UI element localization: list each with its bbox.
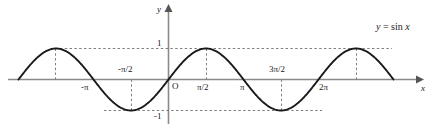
y-tick-label-negative-one: -1 (154, 112, 162, 121)
equation-sin-function: sin (391, 21, 403, 32)
y-axis-arrowhead (165, 4, 173, 12)
graph-canvas (0, 0, 438, 129)
equation-annotation: y = sin x (376, 22, 410, 32)
x-tick-label-negative-pi-over-two: -π/2 (118, 65, 133, 74)
x-tick-label-negative-pi: -π (81, 83, 89, 92)
origin-label: O (172, 82, 179, 91)
x-tick-label-pi: π (240, 83, 245, 92)
x-tick-label-three-pi-over-two: 3π/2 (269, 65, 285, 74)
y-tick-label-one: 1 (157, 39, 162, 48)
x-tick-label-two-pi: 2π (319, 83, 328, 92)
y-axis-label: y (157, 5, 161, 14)
x-axis-label: x (421, 84, 425, 93)
equation-x-variable: x (405, 21, 409, 32)
sine-function-graph: 1 -1 -π O π/2 π 2π -π/2 3π/2 y x y = sin… (0, 0, 438, 129)
x-tick-label-pi-over-two: π/2 (197, 83, 209, 92)
